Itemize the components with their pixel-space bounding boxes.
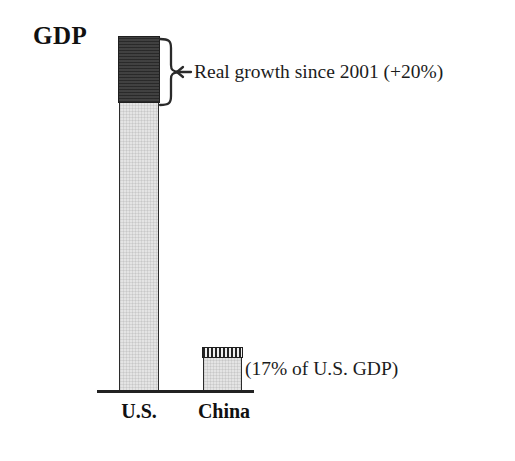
axis-baseline [97,390,254,393]
bar-us [119,37,159,392]
bar-china [203,348,242,392]
page-title: GDP [33,22,87,50]
gdp-bar-chart: GDP Real growth since 2001 (+20%) (17% o… [0,0,515,461]
annotation-real-growth: Real growth since 2001 (+20%) [194,61,443,83]
category-label-us: U.S. [104,400,174,423]
bar-china-growth-segment [202,347,242,358]
category-label-china: China [186,400,262,423]
bar-us-growth-segment [118,36,159,103]
growth-brace-icon [158,36,194,108]
annotation-china-share: (17% of U.S. GDP) [245,358,398,380]
